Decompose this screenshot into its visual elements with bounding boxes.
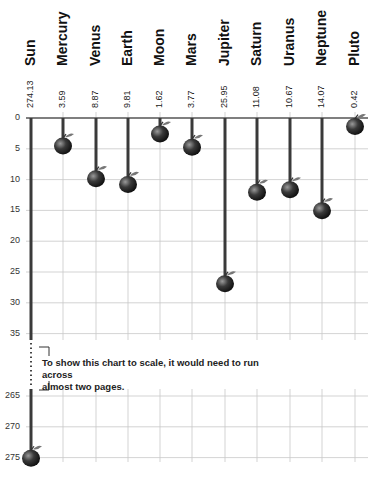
planet-name-label: Neptune (314, 10, 328, 66)
scale-note-line-2: almost two pages. (42, 381, 282, 393)
planet-name-label: Uranus (282, 18, 296, 66)
y-tick-label: 5 (0, 144, 20, 153)
planet-value-label: 3.77 (187, 90, 196, 108)
planet-value-label: 0.42 (350, 90, 359, 108)
y-tick-label: 15 (0, 205, 20, 214)
planet-value-label: 14.07 (317, 85, 326, 108)
planet-name-label: Venus (88, 25, 102, 66)
y-tick-label: 0 (0, 113, 20, 122)
y-tick-label: 275 (0, 453, 20, 462)
planet-name-label: Mercury (55, 12, 69, 66)
planet-name-label: Pluto (347, 31, 361, 66)
planet-value-label: 11.08 (252, 86, 261, 108)
chart-canvas (0, 0, 374, 480)
planet-name-label: Saturn (249, 22, 263, 66)
y-tick-label: 270 (0, 422, 20, 431)
grid-lines (26, 112, 368, 462)
apple-marker-icon (346, 114, 366, 135)
planet-value-label: 9.81 (123, 90, 132, 108)
apple-marker-icon (54, 134, 74, 155)
y-tick-label: 20 (0, 236, 20, 245)
apple-marker-icon (313, 198, 333, 219)
apple-marker-icon (281, 177, 301, 198)
planet-value-label: 274.13 (26, 80, 35, 108)
planet-value-label: 1.62 (155, 90, 164, 108)
apple-marker-icon (151, 121, 171, 142)
apple-marker-icon (183, 135, 203, 156)
scale-note: To show this chart to scale, it would ne… (42, 357, 282, 393)
apple-marker-icon (87, 166, 107, 187)
planet-name-label: Mars (184, 33, 198, 66)
y-tick-label: 35 (0, 329, 20, 338)
y-tick-label: 25 (0, 267, 20, 276)
scale-note-line-1: To show this chart to scale, it would ne… (42, 357, 282, 381)
y-tick-label: 30 (0, 298, 20, 307)
apple-marker-icon (216, 271, 236, 292)
planet-name-label: Earth (120, 30, 134, 66)
apple-marker-icon (248, 180, 268, 201)
y-tick-label: 265 (0, 391, 20, 400)
planet-value-label: 25.95 (220, 85, 229, 108)
planet-name-label: Moon (152, 29, 166, 66)
planet-value-label: 8.87 (91, 90, 100, 108)
planet-name-label: Sun (23, 40, 37, 66)
planet-gravity-chart: 05101520253035265270275Sun274.13Mercury3… (0, 0, 374, 480)
planet-value-label: 10.67 (285, 85, 294, 108)
apple-marker-icon (119, 172, 139, 193)
planet-value-label: 3.59 (58, 90, 67, 108)
planet-name-label: Jupiter (217, 19, 231, 66)
bars (22, 114, 366, 467)
y-tick-label: 10 (0, 175, 20, 184)
apple-marker-icon (22, 446, 42, 467)
